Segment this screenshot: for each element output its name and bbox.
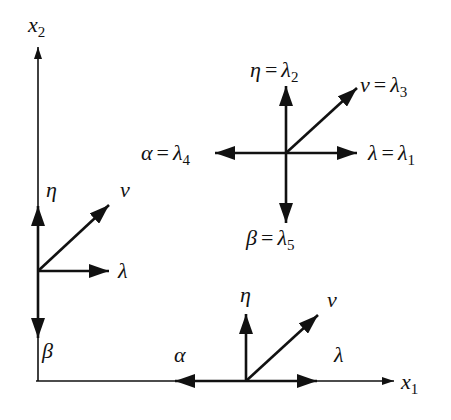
label-lambda: λ — [333, 342, 344, 367]
label-beta-lambda5: β=λ5 — [245, 225, 294, 253]
label-eta: η — [240, 282, 251, 307]
nu-arrow — [38, 205, 109, 271]
bottom-cluster — [175, 314, 318, 381]
label-lambda-lambda1: λ=λ1 — [367, 140, 415, 168]
label-nu: ν — [120, 177, 130, 202]
label-eta-lambda2: η=λ2 — [250, 57, 298, 85]
x1-axis-label: x1 — [400, 369, 418, 397]
x2-axis-label: x2 — [27, 12, 45, 40]
label-nu-lambda3: ν=λ3 — [360, 72, 407, 100]
label-nu: ν — [327, 287, 337, 312]
characteristic-directions-diagram: x2 x1 η=λ2 ν=λ3 α=λ4 λ=λ1 β=λ5 — [0, 0, 451, 420]
top-cluster — [215, 86, 357, 223]
label-beta: β — [41, 338, 53, 363]
nu-arrow — [246, 315, 318, 381]
left-cluster — [38, 205, 109, 338]
label-lambda: λ — [117, 258, 128, 283]
nu-arrow — [286, 88, 357, 153]
bottom-cluster-labels: η ν α λ — [174, 282, 344, 367]
label-alpha: α — [174, 342, 186, 367]
axes: x2 x1 — [27, 12, 418, 397]
label-eta: η — [46, 177, 57, 202]
top-cluster-labels: η=λ2 ν=λ3 α=λ4 λ=λ1 β=λ5 — [141, 57, 415, 253]
label-alpha-lambda4: α=λ4 — [141, 140, 191, 168]
